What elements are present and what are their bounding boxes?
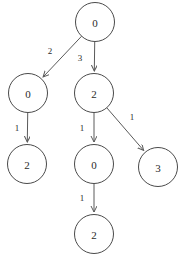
edge-weight-label: 1 xyxy=(130,112,135,122)
node-value-label: 0 xyxy=(91,159,97,171)
node-value-label: 0 xyxy=(25,88,31,100)
graph-node[interactable]: 0 xyxy=(75,145,114,184)
edges-layer xyxy=(27,36,143,212)
graph-node[interactable]: 0 xyxy=(9,74,48,113)
nodes-layer: 0022032 xyxy=(8,3,178,254)
edge-weight-label: 1 xyxy=(80,193,85,203)
graph-node[interactable]: 2 xyxy=(75,215,114,254)
edge-root-left xyxy=(43,36,82,77)
graph-node[interactable]: 2 xyxy=(8,145,47,184)
node-value-label: 2 xyxy=(91,229,97,241)
edge-mid-rightleaf xyxy=(107,108,144,151)
node-value-label: 2 xyxy=(91,88,97,100)
node-value-label: 0 xyxy=(92,17,98,29)
node-value-label: 3 xyxy=(155,162,161,174)
graph-node[interactable]: 0 xyxy=(76,3,115,42)
graph-node[interactable]: 2 xyxy=(75,74,114,113)
node-value-label: 2 xyxy=(24,159,30,171)
graph-node[interactable]: 3 xyxy=(139,148,178,187)
edge-weight-label: 1 xyxy=(80,123,85,133)
graph-canvas-svg: 231111 0022032 xyxy=(0,0,184,259)
graph-diagram: 231111 0022032 xyxy=(0,0,184,259)
edge-weight-label: 1 xyxy=(15,123,20,133)
edge-weight-label: 2 xyxy=(48,46,53,56)
edge-weight-label: 3 xyxy=(78,53,83,63)
